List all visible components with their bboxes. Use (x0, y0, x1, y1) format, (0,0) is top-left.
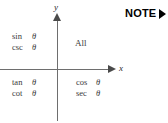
x-axis-line (0, 69, 112, 70)
theta-symbol: θ (32, 77, 36, 87)
quadrant-two-labels: sinθ cscθ (12, 31, 36, 53)
theta-symbol: θ (32, 31, 36, 41)
theta-symbol: θ (96, 88, 100, 98)
function-name: csc (12, 42, 32, 53)
quadrant-three-row: tanθ (12, 77, 36, 88)
y-axis-line (57, 20, 58, 121)
y-axis-arrowhead-icon (53, 13, 61, 21)
function-name: cot (12, 88, 32, 99)
x-axis-arrowhead-icon (108, 65, 116, 73)
function-name: tan (12, 77, 32, 88)
x-axis-label: x (119, 64, 123, 73)
quadrant-four-row: cosθ (76, 77, 100, 88)
figure-canvas: y x sinθ cscθ All tanθ cotθ cosθ secθ (0, 0, 168, 123)
y-axis-label: y (54, 3, 58, 12)
quadrant-two-row: sinθ (12, 31, 36, 42)
quadrant-one-row: All (75, 38, 87, 49)
theta-symbol: θ (32, 42, 36, 52)
theta-symbol: θ (96, 77, 100, 87)
quadrant-four-row: secθ (76, 88, 100, 99)
triangle-right-icon (159, 9, 166, 19)
note-label: NOTE (125, 8, 156, 19)
quadrant-four-labels: cosθ secθ (76, 77, 100, 99)
function-name: sec (76, 88, 96, 99)
quadrant-three-row: cotθ (12, 88, 36, 99)
quadrant-one-labels: All (75, 38, 87, 49)
function-name: cos (76, 77, 96, 88)
function-name: sin (12, 31, 32, 42)
function-name: All (75, 38, 87, 48)
note-callout: NOTE (125, 8, 166, 19)
theta-symbol: θ (32, 88, 36, 98)
quadrant-two-row: cscθ (12, 42, 36, 53)
quadrant-three-labels: tanθ cotθ (12, 77, 36, 99)
